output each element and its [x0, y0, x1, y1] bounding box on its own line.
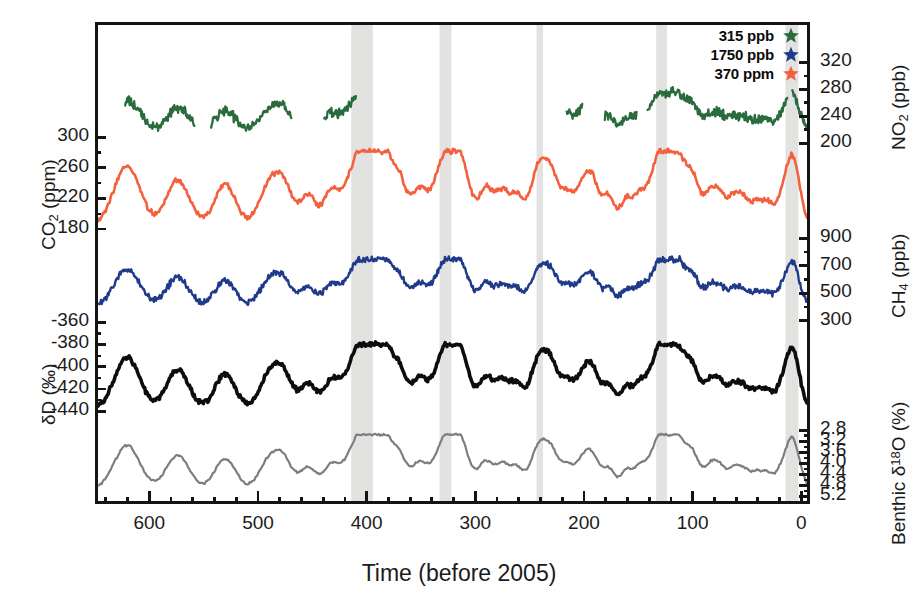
- series-benthic-d18o: [98, 434, 807, 486]
- axis-minor-tick: [804, 128, 810, 130]
- x-axis-minor-tick: [235, 497, 238, 504]
- x-axis-major-tick: [257, 491, 260, 504]
- x-axis-title: Time (before 2005): [0, 560, 918, 587]
- axis-tick-dd: [95, 321, 106, 324]
- x-axis-minor-tick: [322, 497, 325, 504]
- axis-minor-tick: [95, 377, 101, 379]
- axis-minor-tick: [95, 151, 101, 153]
- x-axis-minor-tick: [430, 497, 433, 504]
- axis-tick-d18o: [799, 440, 810, 443]
- x-axis-major-tick: [583, 491, 586, 504]
- x-axis-minor-tick: [126, 497, 129, 504]
- axis-tick-co2: [95, 166, 106, 169]
- tick-label-dd: -380: [19, 331, 89, 353]
- axis-minor-tick: [804, 251, 810, 253]
- x-axis-major-tick: [474, 491, 477, 504]
- axis-minor-tick: [804, 479, 810, 481]
- axis-minor-tick: [95, 332, 101, 334]
- x-axis-minor-tick: [604, 497, 607, 504]
- chart-legend: 315 ppb1750 ppb370 ppm: [711, 26, 800, 83]
- axis-title-ch4: CH4 (ppb): [888, 234, 911, 318]
- axis-minor-tick: [95, 182, 101, 184]
- tick-label-dd: -360: [19, 309, 89, 331]
- x-tick-label: 500: [218, 512, 298, 534]
- legend-item: 1750 ppb: [711, 45, 800, 64]
- axis-minor-tick: [804, 457, 810, 459]
- x-tick-label: 400: [327, 512, 407, 534]
- legend-label: 315 ppb: [719, 27, 774, 44]
- star-icon: [782, 27, 800, 45]
- axis-tick-ch4: [799, 292, 810, 295]
- chart-figure: 300260220180-360-380-400-420-440 3202802…: [0, 0, 918, 616]
- axis-tick-d18o: [799, 429, 810, 432]
- axis-tick-dd: [95, 343, 106, 346]
- x-axis-minor-tick: [561, 497, 564, 504]
- plot-area: [95, 22, 810, 504]
- x-axis-minor-tick: [648, 497, 651, 504]
- x-tick-label: 0: [761, 512, 841, 534]
- tick-label-co2: 300: [19, 124, 89, 146]
- tick-label-ch4: 300: [820, 308, 880, 330]
- axis-minor-tick: [95, 399, 101, 401]
- legend-label: 1750 ppb: [711, 46, 774, 63]
- x-axis-minor-tick: [735, 497, 738, 504]
- axis-title-co2: CO2 (ppm): [38, 159, 61, 250]
- axis-tick-ch4: [799, 264, 810, 267]
- axis-title-dd: δD (‰): [38, 364, 60, 425]
- x-axis-major-tick: [365, 491, 368, 504]
- tick-label-n2o: 280: [820, 76, 880, 98]
- x-axis-minor-tick: [104, 497, 107, 504]
- tick-label-n2o: 200: [820, 130, 880, 152]
- interglacial-bands: [351, 25, 798, 501]
- x-axis-major-tick: [691, 491, 694, 504]
- axis-minor-tick: [804, 434, 810, 436]
- x-axis-minor-tick: [191, 497, 194, 504]
- x-axis-minor-tick: [626, 497, 629, 504]
- chart-canvas: [98, 25, 807, 501]
- axis-minor-tick: [804, 468, 810, 470]
- x-axis-minor-tick: [539, 497, 542, 504]
- x-axis-minor-tick: [387, 497, 390, 504]
- axis-title-n2o: NO2 (ppb): [888, 65, 911, 150]
- star-glyph: [783, 46, 799, 61]
- axis-tick-n2o: [799, 115, 810, 118]
- star-icon: [782, 65, 800, 83]
- axis-minor-tick: [804, 75, 810, 77]
- x-axis-minor-tick: [213, 497, 216, 504]
- axis-minor-tick: [95, 355, 101, 357]
- axis-minor-tick: [804, 101, 810, 103]
- star-glyph: [783, 65, 799, 80]
- axis-tick-co2: [95, 136, 106, 139]
- axis-tick-dd: [95, 365, 106, 368]
- axis-minor-tick: [804, 490, 810, 492]
- x-axis-minor-tick: [713, 497, 716, 504]
- axis-tick-ch4: [799, 319, 810, 322]
- series-dd: [98, 342, 807, 406]
- series-co2: [98, 149, 807, 221]
- tick-label-d18o: 5.2: [820, 483, 880, 505]
- star-icon: [782, 46, 800, 64]
- axis-tick-d18o: [799, 484, 810, 487]
- x-tick-label: 300: [435, 512, 515, 534]
- axis-tick-n2o: [799, 88, 810, 91]
- axis-tick-n2o: [799, 61, 810, 64]
- axis-tick-d18o: [799, 451, 810, 454]
- x-axis-minor-tick: [170, 497, 173, 504]
- x-axis-minor-tick: [496, 497, 499, 504]
- axis-minor-tick: [804, 446, 810, 448]
- legend-item: 315 ppb: [711, 26, 800, 45]
- axis-tick-n2o: [799, 142, 810, 145]
- x-axis-minor-tick: [517, 497, 520, 504]
- axis-minor-tick: [804, 306, 810, 308]
- axis-tick-dd: [95, 410, 106, 413]
- axis-tick-d18o: [799, 473, 810, 476]
- x-axis-major-tick: [800, 491, 803, 504]
- x-axis-minor-tick: [452, 497, 455, 504]
- tick-label-n2o: 240: [820, 103, 880, 125]
- x-axis-major-tick: [148, 491, 151, 504]
- tick-label-ch4: 700: [820, 253, 880, 275]
- x-axis-minor-tick: [778, 497, 781, 504]
- data-series-group: [98, 87, 807, 485]
- axis-minor-tick: [95, 213, 101, 215]
- axis-tick-ch4: [799, 237, 810, 240]
